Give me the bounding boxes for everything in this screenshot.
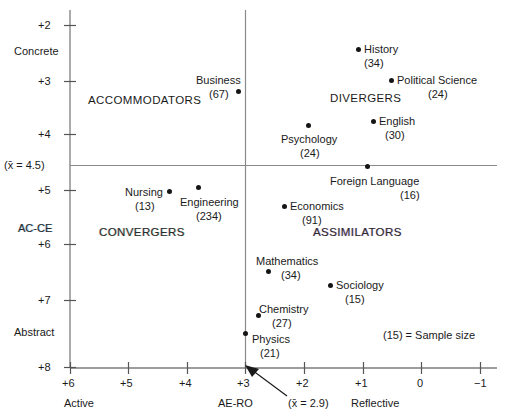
data-point-psychology[interactable] [306,123,311,128]
x-tick-label-5: +5 [120,377,133,389]
quadrant-label-assimilators: ASSIMILATORS [313,226,402,238]
y-axis-label-abstract: Abstract [14,326,54,338]
data-count-economics: (91) [302,214,322,226]
quadrant-label-convergers: CONVERGERS [99,226,185,238]
data-point-sociology[interactable] [328,283,333,288]
kolb-learning-style-scatter-chart: +2 +3 +4 +5 +6 +7 +8 (x̄ = 4.5) Concrete… [0,0,513,417]
data-count-chemistry: (27) [272,317,292,329]
data-point-english[interactable] [371,119,376,124]
data-point-business[interactable] [236,89,241,94]
x-tick-label-6: +6 [62,377,75,389]
y-mean-tick-label: (x̄ = 4.5) [4,159,45,171]
data-count-nursing: (13) [135,200,155,212]
data-label-history: History [364,43,398,55]
data-label-engineering: Engineering [180,196,239,208]
y-tick-label-5: +5 [38,184,51,196]
x-axis-label-active: Active [64,397,94,409]
data-label-business: Business [196,74,241,86]
data-count-sociology: (15) [345,293,365,305]
data-label-foreign-language: Foreign Language [330,175,419,187]
chart-axes-svg [0,0,513,417]
y-tick-label-2: +2 [38,19,51,31]
data-label-nursing: Nursing [125,186,163,198]
mean-x-annotation-label: (x̄ = 2.9) [288,397,329,409]
data-label-sociology: Sociology [336,279,384,291]
data-count-foreign-language: (16) [400,189,420,201]
data-point-history[interactable] [356,47,361,52]
data-count-english: (30) [385,129,405,141]
x-tick-label-4: +4 [179,377,192,389]
data-label-mathematics: Mathematics [256,255,318,267]
data-point-nursing[interactable] [167,189,172,194]
x-axis-label-reflective: Reflective [351,397,399,409]
data-count-psychology: (24) [300,147,320,159]
y-tick-label-4: +4 [38,128,51,140]
y-axis-label-concrete: Concrete [14,45,59,57]
data-count-political-science: (24) [428,88,448,100]
x-axis-name-ae-ro: AE-RO [218,397,253,409]
y-tick-label-7: +7 [38,294,51,306]
data-label-physics: Physics [252,333,290,345]
data-count-mathematics: (34) [281,269,301,281]
mean-x-annotation-arrow [245,365,287,396]
legend-sample-size: (15) = Sample size [383,329,475,341]
quadrant-label-divergers: DIVERGERS [330,92,401,104]
data-count-history: (34) [364,57,384,69]
data-label-economics: Economics [290,200,344,212]
data-count-business: (67) [209,88,229,100]
data-label-political-science: Political Science [397,74,477,86]
y-axis-name-ac-ce: AC-CE [18,222,52,234]
data-count-physics: (21) [260,347,280,359]
x-tick-label-0: 0 [417,377,423,389]
x-tick-label-1: +1 [355,377,368,389]
data-label-psychology: Psychology [281,133,337,145]
x-tick-label-3: +3 [237,377,250,389]
y-tick-label-3: +3 [38,75,51,87]
data-point-engineering[interactable] [196,185,201,190]
data-point-economics[interactable] [282,204,287,209]
quadrant-label-accommodators: ACCOMMODATORS [88,94,201,106]
y-tick-label-6: +6 [38,238,51,250]
x-tick-label-neg1: −1 [474,377,487,389]
x-tick-label-2: +2 [296,377,309,389]
data-label-chemistry: Chemistry [259,303,309,315]
data-point-foreign-language[interactable] [365,164,370,169]
data-point-physics[interactable] [243,331,248,336]
data-point-political-science[interactable] [389,78,394,83]
data-point-mathematics[interactable] [266,269,271,274]
y-tick-label-8: +8 [38,361,51,373]
data-count-engineering: (234) [196,210,222,222]
data-label-english: English [379,115,415,127]
